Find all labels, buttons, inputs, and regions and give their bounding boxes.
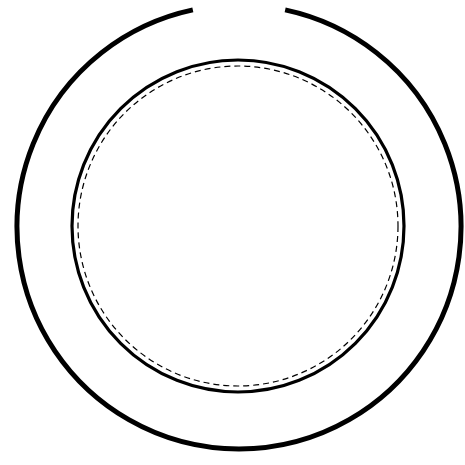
plate-diagram xyxy=(0,0,465,465)
